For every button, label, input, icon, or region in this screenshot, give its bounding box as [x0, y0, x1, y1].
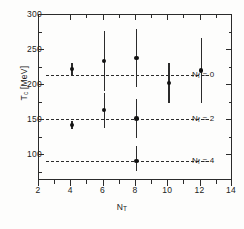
xtick-minor-5 — [86, 180, 87, 184]
y-axis-title-main: T — [19, 95, 29, 100]
y-axis-title: Tc [MeV] — [19, 43, 29, 123]
ytick-major-right-200 — [226, 84, 232, 85]
xtick-label-8: 8 — [125, 186, 145, 195]
reference-label-nf0: Nf = 0 — [192, 70, 214, 79]
xtick-label-2: 2 — [28, 186, 48, 195]
legend-nf2-equals: = 2 — [202, 114, 214, 123]
ytick-major-300 — [38, 14, 44, 15]
y-axis-title-sub: c — [22, 92, 29, 95]
data-point-marker — [134, 56, 138, 60]
xtick-minor-9 — [151, 180, 152, 184]
xtick-minor-top-9 — [151, 14, 152, 18]
xtick-major-top-12 — [200, 14, 201, 20]
xtick-minor-top-13 — [216, 14, 217, 18]
xtick-minor-top-7 — [119, 14, 120, 18]
ytick-minor-right-125 — [229, 137, 233, 138]
ytick-major-100 — [38, 154, 44, 155]
legend-nf2-sub: f — [198, 116, 200, 123]
xtick-minor-7 — [119, 180, 120, 184]
ytick-minor-125 — [38, 137, 42, 138]
xtick-major-top-10 — [167, 14, 168, 20]
xtick-major-top-8 — [135, 14, 136, 20]
ytick-major-200 — [38, 84, 44, 85]
ytick-minor-225 — [38, 67, 42, 68]
xtick-major-top-6 — [103, 14, 104, 20]
ytick-major-right-150 — [226, 119, 232, 120]
x-axis-title-sub: T — [123, 205, 127, 212]
reference-line-nf4 — [46, 161, 209, 162]
xtick-label-6: 6 — [93, 186, 113, 195]
xtick-label-14: 14 — [221, 186, 241, 195]
legend-nf4-sub: f — [198, 158, 200, 165]
figure-container: 300 250 200 150 100 2 4 6 8 — [0, 0, 244, 229]
xtick-label-12: 12 — [190, 186, 210, 195]
xtick-minor-11 — [183, 180, 184, 184]
xtick-minor-3 — [54, 180, 55, 184]
ytick-major-right-250 — [226, 49, 232, 50]
ytick-major-250 — [38, 49, 44, 50]
ytick-minor-175 — [38, 102, 42, 103]
ytick-major-right-100 — [226, 154, 232, 155]
reference-label-nf4: Nf = 4 — [192, 156, 214, 165]
ytick-minor-275 — [38, 32, 42, 33]
xtick-minor-top-5 — [86, 14, 87, 18]
ytick-minor-75 — [38, 172, 42, 173]
xtick-label-4: 4 — [60, 186, 80, 195]
xtick-label-10: 10 — [157, 186, 177, 195]
x-axis-title: NT — [0, 202, 244, 212]
ytick-major-150 — [38, 119, 44, 120]
xtick-major-top-4 — [70, 14, 71, 20]
xtick-minor-top-11 — [183, 14, 184, 18]
ytick-minor-right-175 — [229, 102, 233, 103]
ytick-minor-right-225 — [229, 67, 233, 68]
legend-nf0-equals: = 0 — [202, 70, 214, 79]
data-point-marker — [134, 116, 138, 120]
ytick-major-right-300 — [226, 14, 232, 15]
legend-nf4-equals: = 4 — [202, 156, 214, 165]
reference-label-nf2: Nf = 2 — [192, 114, 214, 123]
xtick-minor-13 — [216, 180, 217, 184]
ytick-minor-right-275 — [229, 32, 233, 33]
y-axis-title-unit: [MeV] — [19, 66, 29, 92]
